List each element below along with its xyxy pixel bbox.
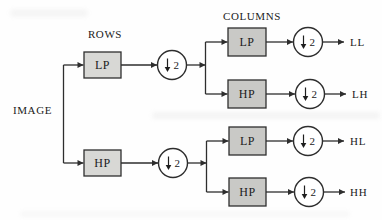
cols-top-lp-filter-label: LP: [239, 35, 254, 49]
columns-section-label: COLUMNS: [223, 10, 281, 22]
downsample-factor: 2: [175, 157, 181, 169]
rows-lp-filter-label: LP: [95, 58, 110, 72]
output-label-hh: HH: [350, 186, 368, 198]
rows-hp-downsampler: 2: [159, 149, 188, 178]
ll-downsampler: 2: [294, 28, 323, 57]
output-label-hl: HL: [350, 135, 366, 147]
output-label-ll: LL: [350, 36, 365, 48]
rows-lp-downsampler: 2: [158, 51, 187, 80]
rows-hp-filter-label: HP: [94, 156, 111, 170]
rows-section-label: ROWS: [88, 28, 122, 40]
hh-downsampler: 2: [295, 178, 324, 207]
image-input-label: IMAGE: [13, 104, 52, 116]
filterbank-svg: ROWS COLUMNS IMAGE LP HP 2 2: [0, 0, 382, 220]
downsample-factor: 2: [310, 36, 316, 48]
downsampler-circle: [159, 149, 188, 178]
downsampler-circle: [295, 178, 324, 207]
lh-downsampler: 2: [296, 80, 325, 109]
downsample-factor: 2: [311, 186, 317, 198]
downsample-factor: 2: [174, 59, 180, 71]
cols-bottom-lp-filter-label: LP: [240, 134, 255, 148]
hl-downsampler: 2: [294, 127, 323, 156]
downsampler-circle: [158, 51, 187, 80]
downsampler-circle: [294, 28, 323, 57]
cols-top-hp-filter-label: HP: [239, 87, 256, 101]
downsampler-circle: [294, 127, 323, 156]
downsampler-circle: [296, 80, 325, 109]
downsample-factor: 2: [312, 88, 318, 100]
downsample-factor: 2: [310, 135, 316, 147]
cols-bottom-hp-filter-label: HP: [239, 185, 256, 199]
output-label-lh: LH: [352, 88, 368, 100]
wavelet-filterbank-diagram: ROWS COLUMNS IMAGE LP HP 2 2: [0, 0, 382, 220]
